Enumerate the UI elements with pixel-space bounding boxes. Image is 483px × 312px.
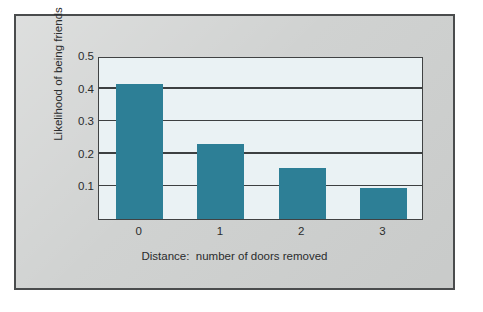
x-axis-tick-labels: 0123 <box>98 225 423 243</box>
x-axis-tick-label: 1 <box>217 225 223 237</box>
y-axis-tick-label: 0.3 <box>60 116 94 128</box>
bar <box>279 168 326 219</box>
bar <box>116 84 163 219</box>
plot-area <box>98 57 423 220</box>
bar <box>197 144 244 219</box>
bar <box>360 188 407 219</box>
y-axis-tick-label: 0.2 <box>60 149 94 161</box>
x-axis-tick-label: 0 <box>135 225 141 237</box>
bar-series <box>99 58 422 219</box>
figure-panel: Likelihood of being friends 0.10.20.30.4… <box>14 14 455 290</box>
y-axis-tick-label: 0.5 <box>60 51 94 63</box>
x-axis-tick-label: 2 <box>298 225 304 237</box>
y-axis-tick-label: 0.1 <box>60 182 94 194</box>
y-axis-tick-label: 0.4 <box>60 84 94 96</box>
x-axis-title: Distance: number of doors removed <box>16 250 453 262</box>
x-axis-tick-label: 3 <box>379 225 385 237</box>
y-axis-tick-labels: 0.10.20.30.40.5 <box>54 57 94 220</box>
